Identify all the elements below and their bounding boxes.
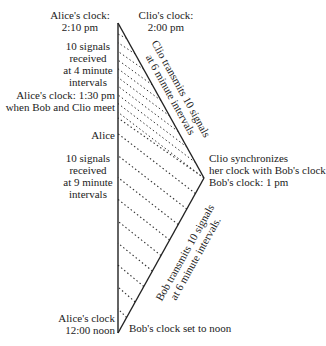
alice-received-4min-label: 10 signals received at 4 minute interval… — [62, 40, 114, 88]
clio-clock-top-label: Clio's clock: 2:00 pm — [126, 9, 206, 33]
label-line: at 9 minute — [62, 176, 114, 188]
clio-signal-line — [118, 51, 144, 69]
alice-clock-bottom-label: Alice's clock 12:00 noon — [40, 312, 115, 336]
bob-signal-line — [118, 243, 152, 271]
label-line: Alice's clock — [40, 312, 115, 324]
label-line: Alice's clock: 1:30 pm — [0, 89, 115, 101]
label-line: Bob's clock: 1 pm — [209, 176, 326, 188]
clio-sync-label: Clio synchronizes her clock with Bob's c… — [209, 152, 326, 188]
label-line: 10 signals — [62, 40, 114, 52]
bob-signal-line — [118, 178, 178, 225]
alice-received-9min-label: 10 signals received at 9 minute interval… — [62, 152, 114, 200]
alice-meet-label: Alice's clock: 1:30 pm when Bob and Clio… — [0, 89, 115, 113]
bob-signal-line — [118, 156, 187, 209]
label-line: intervals — [62, 76, 114, 88]
label-line: when Bob and Clio meet — [0, 101, 115, 113]
label-line: Clio's clock: — [126, 9, 206, 21]
label-line: her clock with Bob's clock — [209, 164, 326, 176]
alice-clock-top-label: Alice's clock: 2:10 pm — [40, 9, 120, 33]
bob-signal-line — [118, 265, 144, 286]
label-line: Alice's clock: — [40, 9, 120, 21]
label-line: at 4 minute — [62, 64, 114, 76]
alice-label: Alice — [60, 129, 115, 141]
bob-signal-line — [118, 221, 161, 255]
label-line: 2:10 pm — [40, 21, 120, 33]
label-line: 2:00 pm — [126, 21, 206, 33]
bob-signal-line — [118, 309, 127, 318]
bob-signal-line — [118, 287, 135, 302]
label-line: received — [62, 52, 114, 64]
label-line: received — [62, 164, 114, 176]
label-line: 12:00 noon — [40, 324, 115, 336]
bob-signal-line — [118, 199, 170, 240]
label-line: 10 signals — [62, 152, 114, 164]
label-line: intervals — [62, 188, 114, 200]
bob-start-label: Bob's clock set to noon — [129, 322, 231, 334]
label-line: Clio synchronizes — [209, 152, 326, 164]
